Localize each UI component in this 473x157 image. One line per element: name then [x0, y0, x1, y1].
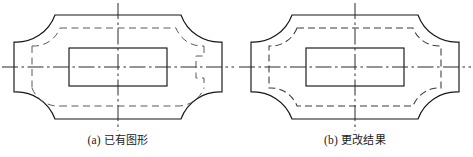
figure-b-caption-label: (b) [324, 134, 338, 146]
figure-container: (a)已有图形 (b)更改结果 [0, 0, 473, 157]
figure-a: (a)已有图形 [0, 0, 236, 157]
figure-b-drawing [237, 0, 473, 131]
offset-contour-top-a [60, 28, 204, 46]
figure-b: (b)更改结果 [237, 0, 473, 157]
figure-a-caption-label: (a) [87, 134, 100, 146]
figure-a-caption-text: 已有图形 [104, 134, 149, 147]
figure-a-drawing [0, 0, 236, 131]
figure-b-caption-text: 更改结果 [341, 134, 386, 147]
figure-a-caption: (a)已有图形 [0, 131, 236, 147]
figure-b-caption: (b)更改结果 [237, 131, 473, 147]
